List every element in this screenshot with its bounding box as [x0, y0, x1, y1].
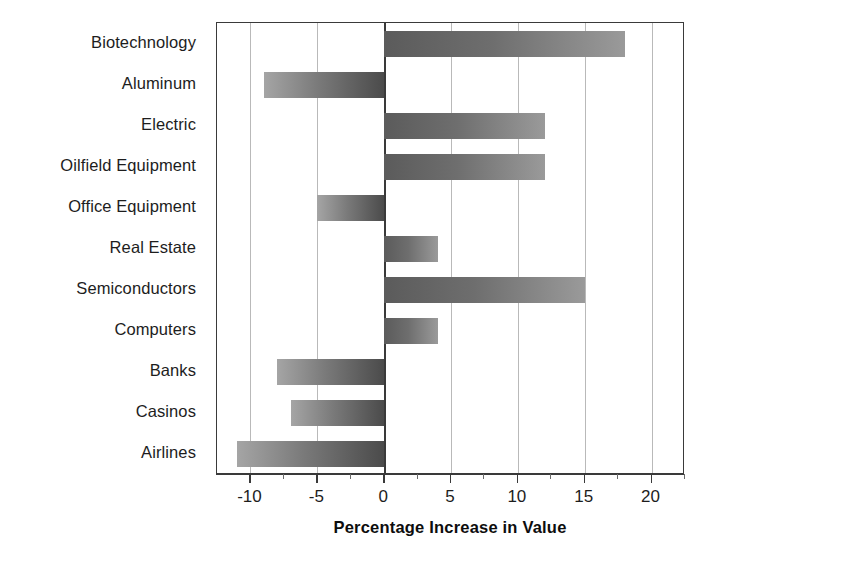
x-tick-label: 15 — [574, 487, 593, 507]
category-label: Real Estate — [0, 239, 196, 256]
tick-mark — [584, 474, 585, 483]
tick-mark — [316, 474, 317, 483]
gridline — [585, 23, 586, 473]
category-label: Semiconductors — [0, 280, 196, 297]
category-label: Aluminum — [0, 75, 196, 92]
x-tick-label: -5 — [309, 487, 324, 507]
x-tick-label: 10 — [507, 487, 526, 507]
category-label: Banks — [0, 362, 196, 379]
bar — [384, 236, 437, 262]
bar — [237, 441, 384, 467]
tick-mark — [383, 474, 384, 483]
minor-tick-mark — [283, 474, 284, 479]
bar — [291, 400, 385, 426]
minor-tick-mark — [684, 474, 685, 479]
tick-mark — [450, 474, 451, 483]
category-axis: BiotechnologyAluminumElectricOilfield Eq… — [0, 22, 208, 474]
gridline — [652, 23, 653, 473]
category-label: Airlines — [0, 444, 196, 461]
bar — [384, 318, 437, 344]
bar — [277, 359, 384, 385]
bar — [384, 277, 585, 303]
x-tick-label: 5 — [445, 487, 454, 507]
category-label: Office Equipment — [0, 198, 196, 215]
gridline — [250, 23, 251, 473]
minor-tick-mark — [350, 474, 351, 479]
minor-tick-mark — [617, 474, 618, 479]
bar — [384, 31, 625, 57]
gridline — [518, 23, 519, 473]
minor-tick-mark — [417, 474, 418, 479]
category-label: Electric — [0, 116, 196, 133]
tick-mark — [517, 474, 518, 483]
gridline — [451, 23, 452, 473]
tick-mark — [651, 474, 652, 483]
category-label: Oilfield Equipment — [0, 157, 196, 174]
x-tick-label: 0 — [378, 487, 387, 507]
bar — [317, 195, 384, 221]
tick-mark — [249, 474, 250, 483]
category-label: Computers — [0, 321, 196, 338]
bar — [384, 154, 544, 180]
x-axis-ticks — [216, 474, 684, 488]
minor-tick-mark — [550, 474, 551, 479]
bar — [384, 113, 544, 139]
bar — [264, 72, 384, 98]
x-tick-label: -10 — [237, 487, 262, 507]
x-tick-label: 20 — [641, 487, 660, 507]
category-label: Biotechnology — [0, 34, 196, 51]
plot-area — [216, 22, 684, 474]
bar-chart: BiotechnologyAluminumElectricOilfield Eq… — [0, 0, 841, 572]
minor-tick-mark — [483, 474, 484, 479]
category-label: Casinos — [0, 403, 196, 420]
x-axis-title: Percentage Increase in Value — [216, 518, 684, 537]
x-axis-tick-labels: -10-505101520 — [216, 487, 684, 513]
